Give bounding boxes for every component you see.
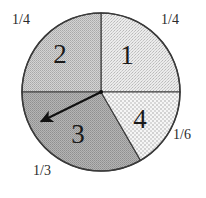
fraction-label-top-left: 1/4 [12,12,30,28]
sector-2-number: 2 [53,39,67,69]
sector-1-number: 1 [120,40,134,70]
spinner-pivot [99,90,103,94]
fraction-label-bottom-left: 1/3 [33,163,51,179]
spinner-diagram: 1 2 3 4 1/4 1/4 1/6 1/3 [0,0,206,198]
spinner-canvas: 1 2 3 4 [0,0,206,198]
sector-4-number: 4 [133,104,147,134]
fraction-label-bottom-right: 1/6 [173,127,191,143]
fraction-label-top-right: 1/4 [161,12,179,28]
sector-3-number: 3 [71,119,85,149]
